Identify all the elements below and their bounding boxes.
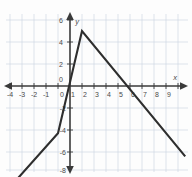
x-tick-label: 1 [71,91,75,98]
graph-figure: -4 -3 -2 -1 0 1 2 3 4 5 6 7 8 9 6 4 2 0 … [0,0,192,177]
y-tick-label: -6 [60,149,66,156]
x-tick-label: -4 [7,91,13,98]
x-tick-label: 3 [95,91,99,98]
x-tick-label: 5 [119,91,123,98]
chart-background [0,0,192,177]
coordinate-plane-chart: -4 -3 -2 -1 0 1 2 3 4 5 6 7 8 9 6 4 2 0 … [0,0,192,177]
y-tick-label: -4 [60,127,66,134]
x-tick-label: 2 [83,91,87,98]
x-tick-label: 7 [143,91,147,98]
x-tick-label: 4 [107,91,111,98]
y-tick-label: 2 [59,61,63,68]
x-tick-label: 8 [155,91,159,98]
y-tick-label: 0 [59,76,63,83]
x-tick-label: -1 [43,91,49,98]
x-axis-label: x [172,73,177,82]
x-tick-label: -3 [19,91,25,98]
y-tick-label: -8 [60,167,66,174]
y-tick-label: 4 [59,39,63,46]
x-tick-label: 0 [60,91,64,98]
x-tick-label: 9 [167,91,171,98]
x-tick-label: -2 [31,91,37,98]
y-tick-label: 6 [59,17,63,24]
